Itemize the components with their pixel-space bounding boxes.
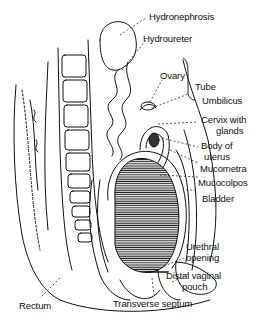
label-hydroureter: Hydroureter xyxy=(143,34,192,45)
label-hydronephrosis: Hydronephrosis xyxy=(149,12,214,23)
label-distal-line2: pouch xyxy=(182,282,207,293)
label-urethral-line2: opening xyxy=(186,253,219,264)
label-ovary: Ovary xyxy=(160,71,185,82)
label-transverse-septum: Transverse septum xyxy=(113,299,192,310)
label-mucometra: Mucometra xyxy=(200,164,247,175)
spine-anterior xyxy=(58,48,72,270)
label-urethral-line1: Urethral xyxy=(186,242,219,253)
label-cervix-line1: Cervix with xyxy=(201,115,246,126)
label-umbilicus: Umbilicus xyxy=(202,96,242,107)
label-mucocolpos: Mucocolpos xyxy=(198,178,248,189)
label-body-line2: uterus xyxy=(204,152,230,163)
label-tube: Tube xyxy=(195,82,216,93)
label-distal-line1: Distal vaginal xyxy=(166,271,221,282)
back-outline xyxy=(14,85,60,300)
label-cervix-line2: glands xyxy=(216,126,243,137)
label-rectum: Rectum xyxy=(19,301,51,312)
label-body-line1: Body of xyxy=(201,141,233,152)
kidney xyxy=(100,22,136,71)
hydroureter xyxy=(107,70,118,156)
label-bladder: Bladder xyxy=(202,194,234,205)
